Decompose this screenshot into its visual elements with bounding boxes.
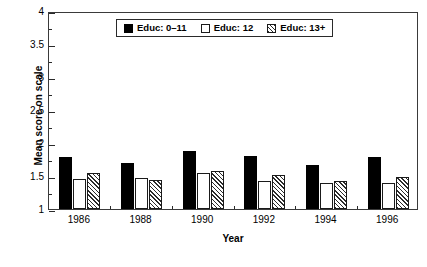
x-tick-minor [110,206,111,209]
y-tick-label: 3 [4,73,44,83]
bar [244,156,257,209]
y-tick-label: 2 [4,139,44,149]
x-tick-label: 1994 [304,214,348,225]
x-tick-label: 1986 [57,214,101,225]
x-tick-label: 1988 [119,214,163,225]
bar [272,175,285,209]
legend-item-2[interactable]: Educ: 13+ [267,23,325,33]
x-tick-label: 1990 [180,214,224,225]
bar [306,165,319,209]
y-tick-label: 4 [4,7,44,17]
y-tick-label: 1 [4,205,44,215]
x-tick-minor [234,206,235,209]
y-tick-major [49,178,55,179]
bar [121,163,134,209]
x-tick-label: 1992 [242,214,286,225]
bar [258,181,271,209]
y-tick-minor [49,128,52,129]
x-tick-minor [295,206,296,209]
y-tick-minor [49,194,52,195]
bar [135,178,148,209]
legend-label-1: Educ: 12 [214,23,254,33]
legend-label-0: Educ: 0–11 [137,23,187,33]
bar-chart-figure: Mean score on scale 11.522.533.54 198619… [0,0,427,267]
y-tick-minor [49,95,52,96]
y-tick-major [49,211,55,212]
bar [211,171,224,209]
x-tick-minor [172,206,173,209]
y-tick-minor [49,29,52,30]
y-tick-major [49,112,55,113]
bar [368,157,381,209]
plot-area [48,12,418,210]
x-axis-title: Year [48,233,418,244]
bar [396,177,409,209]
legend-item-1[interactable]: Educ: 12 [201,23,254,33]
bar [59,157,72,209]
y-tick-major [49,13,55,14]
bar [334,181,347,209]
bar [149,180,162,209]
x-tick-label: 1996 [365,214,409,225]
y-tick-minor [49,161,52,162]
bar [197,173,210,209]
bar [73,179,86,209]
bar [87,173,100,209]
legend-swatch-open-white-icon [201,24,210,33]
chart-legend: Educ: 0–11 Educ: 12 Educ: 13+ [116,19,333,37]
bar [320,183,333,209]
bar [183,151,196,209]
legend-item-0[interactable]: Educ: 0–11 [124,23,187,33]
legend-swatch-solid-black-icon [124,24,133,33]
y-tick-minor [49,62,52,63]
legend-swatch-diagonal-hatch-icon [267,24,276,33]
x-tick-minor [357,206,358,209]
y-tick-major [49,46,55,47]
legend-label-2: Educ: 13+ [280,23,325,33]
y-tick-label: 3.5 [4,40,44,50]
y-tick-label: 1.5 [4,172,44,182]
bar [382,183,395,209]
y-tick-label: 2.5 [4,106,44,116]
y-tick-major [49,79,55,80]
y-tick-major [49,145,55,146]
